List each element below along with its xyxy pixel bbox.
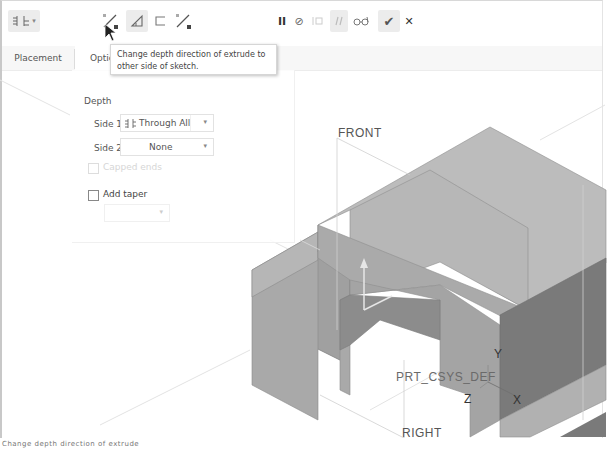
taper-value-dropdown[interactable]: ▾ — [104, 204, 170, 222]
attached-preview-icon — [310, 15, 324, 27]
add-taper-checkbox[interactable] — [88, 190, 99, 201]
status-message: Change depth direction of extrude — [2, 440, 139, 448]
side2-label: Side 2 — [94, 143, 122, 153]
chevron-down-icon: ▾ — [203, 118, 207, 126]
axis-y-label: Y — [494, 347, 503, 361]
close-icon: ✕ — [404, 15, 413, 28]
cancel-button[interactable]: ✕ — [402, 10, 416, 32]
flip-material-icon — [174, 12, 192, 30]
axis-x-label: X — [513, 393, 522, 407]
through-all-icon — [125, 118, 137, 129]
csys-label[interactable]: PRT_CSYS_DEF — [396, 370, 496, 384]
side2-value: None — [149, 142, 172, 152]
depth-heading: Depth — [84, 96, 111, 106]
verify-mode-button[interactable] — [330, 10, 348, 32]
axis-z-label: Z — [464, 392, 472, 406]
ok-button[interactable]: ✔ — [378, 10, 400, 32]
side1-label: Side 1 — [94, 119, 122, 129]
verify-mode-icon — [332, 15, 346, 27]
surface-button[interactable] — [152, 10, 168, 32]
check-icon: ✔ — [384, 14, 395, 29]
attached-preview-button[interactable] — [309, 10, 325, 32]
capped-ends-checkbox[interactable] — [88, 163, 99, 174]
solid-button[interactable] — [126, 10, 148, 32]
chevron-down-icon: ▾ — [203, 142, 207, 150]
preview-glasses-button[interactable] — [352, 10, 370, 32]
status-bar: Change depth direction of extrude — [0, 438, 609, 451]
solid-icon — [129, 13, 145, 29]
add-taper-label: Add taper — [103, 189, 147, 199]
options-panel: Depth Side 1 Through All ▾ Side 2 None ▾… — [72, 70, 295, 243]
mouse-cursor — [104, 23, 118, 43]
extrude-dashboard: ▾ II ⊘ ✔ ✕ — [2, 1, 602, 38]
side1-depth-dropdown[interactable]: Through All ▾ — [120, 114, 214, 132]
preview-glasses-icon — [353, 15, 369, 27]
tab-placement[interactable]: Placement — [2, 46, 74, 70]
flip-direction-tooltip: Change depth direction of extrude to oth… — [110, 44, 277, 75]
side1-value: Through All — [139, 118, 190, 128]
tab-options[interactable]: Optic — [75, 46, 115, 70]
datum-front-label[interactable]: FRONT — [338, 126, 382, 140]
capped-ends-label: Capped ends — [103, 162, 162, 172]
blind-depth-icon — [12, 14, 32, 28]
side2-depth-dropdown[interactable]: None ▾ — [120, 138, 214, 156]
chevron-down-icon: ▾ — [159, 208, 163, 216]
flip-material-button[interactable] — [172, 10, 194, 32]
depth-type-button[interactable]: ▾ — [8, 10, 40, 32]
chevron-down-icon: ▾ — [32, 17, 36, 25]
no-preview-button[interactable]: ⊘ — [292, 10, 306, 32]
no-preview-icon: ⊘ — [294, 15, 303, 28]
surface-icon — [153, 14, 167, 28]
pause-icon: II — [278, 15, 286, 28]
pause-button[interactable]: II — [276, 10, 288, 32]
dashboard-tabs: Placement Optic — [2, 46, 602, 71]
